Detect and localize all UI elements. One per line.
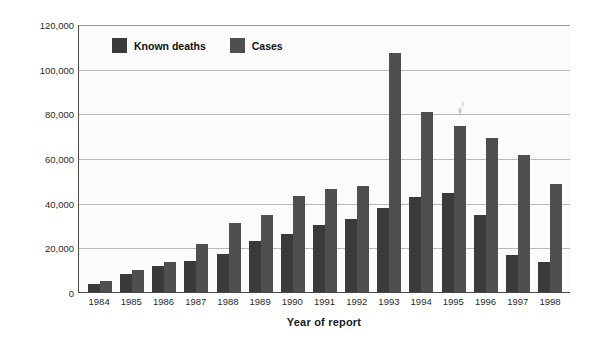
bar-known-deaths [217, 254, 229, 292]
x-axis-tick-label: 1994 [405, 296, 437, 312]
chart-legend: Known deaths Cases [112, 38, 283, 53]
x-axis-tick-label: 1997 [502, 296, 534, 312]
bar-known-deaths [184, 261, 196, 292]
bar-known-deaths [345, 219, 357, 292]
bar-known-deaths [281, 234, 293, 292]
bar-cases [261, 215, 273, 292]
bar-cases [357, 186, 369, 292]
bar-known-deaths [313, 225, 325, 292]
x-axis-tick-label: 1991 [308, 296, 340, 312]
bar-cases [325, 189, 337, 292]
bar-known-deaths [377, 208, 389, 292]
bar-cases [229, 223, 241, 292]
bar-group [534, 25, 566, 292]
y-axis-tick-label: 100,000 [2, 64, 74, 75]
bar-cases [518, 155, 530, 292]
y-axis-tick-labels: 020,00040,00060,00080,000100,000120,000 [0, 25, 74, 293]
x-axis-tick-label: 1989 [244, 296, 276, 312]
legend-item-cases: Cases [230, 38, 283, 53]
bar-group [502, 25, 534, 292]
bar-groups [79, 25, 570, 292]
bar-group [148, 25, 180, 292]
bar-group [341, 25, 373, 292]
bar-group [84, 25, 116, 292]
legend-item-known-deaths: Known deaths [112, 38, 206, 53]
y-axis-tick-label: 120,000 [2, 20, 74, 31]
x-axis-tick-label: 1992 [341, 296, 373, 312]
chart-figure: Reported cases 020,00040,00060,00080,000… [0, 0, 598, 342]
bar-group [309, 25, 341, 292]
x-axis-tick-label: 1993 [373, 296, 405, 312]
bar-known-deaths [506, 255, 518, 292]
x-axis-tick-label: 1995 [437, 296, 469, 312]
bar-cases [486, 138, 498, 292]
x-axis-tick-label: 1998 [534, 296, 566, 312]
bar-group [213, 25, 245, 292]
bar-cases [164, 262, 176, 292]
bar-cases [196, 244, 208, 292]
bar-known-deaths [88, 284, 100, 292]
bar-group [116, 25, 148, 292]
bar-group [438, 25, 470, 292]
x-axis-tick-label: 1987 [180, 296, 212, 312]
bar-known-deaths [538, 262, 550, 292]
y-axis-tick-label: 40,000 [2, 198, 74, 209]
legend-swatch-cases-icon [230, 38, 245, 53]
bar-group [180, 25, 212, 292]
x-axis-tick-label: 1986 [147, 296, 179, 312]
x-axis-tick-label: 1984 [83, 296, 115, 312]
bar-cases [100, 281, 112, 292]
bar-cases [550, 184, 562, 292]
bar-group [245, 25, 277, 292]
x-axis-tick-label: 1985 [115, 296, 147, 312]
x-axis-tick-labels: 1984198519861987198819891990199119921993… [78, 296, 570, 312]
x-axis-tick-label: 1990 [276, 296, 308, 312]
bar-known-deaths [409, 197, 421, 292]
x-axis-tick-label: 1996 [469, 296, 501, 312]
y-axis-tick-label: 60,000 [2, 154, 74, 165]
y-axis-tick-label: 20,000 [2, 243, 74, 254]
y-axis-tick-label: 0 [2, 288, 74, 299]
bar-cases [421, 112, 433, 292]
bar-cases [293, 196, 305, 292]
bar-cases [132, 270, 144, 292]
y-axis-tick-label: 80,000 [2, 109, 74, 120]
bar-known-deaths [474, 215, 486, 292]
legend-swatch-known-deaths-icon [112, 38, 127, 53]
bar-group [373, 25, 405, 292]
x-axis-title: Year of report [78, 316, 570, 328]
bar-known-deaths [249, 241, 261, 292]
bar-cases [389, 53, 401, 292]
bar-known-deaths [152, 266, 164, 292]
bar-group [405, 25, 437, 292]
legend-label-cases: Cases [252, 40, 283, 52]
bar-known-deaths [120, 274, 132, 292]
bar-group [277, 25, 309, 292]
x-axis-tick-label: 1988 [212, 296, 244, 312]
bar-group [470, 25, 502, 292]
bar-known-deaths [442, 193, 454, 292]
legend-label-known-deaths: Known deaths [134, 40, 206, 52]
bar-cases [454, 126, 466, 292]
plot-area [78, 25, 570, 293]
